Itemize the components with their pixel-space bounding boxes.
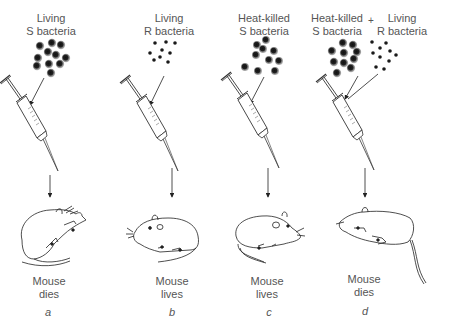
- panel-c-injection-arrow: [250, 77, 264, 104]
- panel-a-dead-mouse-icon: [21, 206, 86, 266]
- panel-c-letter: c: [259, 306, 279, 318]
- panel-a-outcome-line2: dies: [21, 288, 77, 301]
- panel-b-letter: b: [162, 306, 182, 318]
- panel-b-outcome-line1: Mouse: [147, 275, 197, 288]
- panel-c-outcome-line1: Mouse: [242, 275, 292, 288]
- panel-a-outcome: Mouse dies: [21, 275, 77, 301]
- panel-b-syringe-icon: [120, 75, 178, 171]
- panel-a-injection-arrow: [30, 78, 44, 105]
- panel-b-label-line1: Living: [140, 12, 198, 25]
- panel-d-s-injection-arrow: [345, 76, 358, 99]
- panel-c-label-line1: Heat-killed: [232, 12, 296, 25]
- panel-d-r-bacteria: [370, 40, 398, 71]
- panel-a-outcome-line1: Mouse: [21, 275, 77, 288]
- panel-a-label-line1: Living: [22, 12, 80, 25]
- panel-d-second-label-line2: R bacteria: [372, 25, 432, 38]
- panel-d-s-bacteria: [328, 39, 361, 77]
- panel-b-live-mouse-icon: [126, 215, 199, 262]
- panel-c-outcome-line2: lives: [242, 288, 292, 301]
- panel-b-outcome: Mouse lives: [147, 275, 197, 301]
- panel-b-injection-label: Living R bacteria: [140, 12, 198, 38]
- panel-d-letter: d: [355, 305, 375, 317]
- panel-b-injection-arrow: [150, 76, 164, 105]
- panel-d-second-label-line1: Living: [372, 12, 432, 25]
- panel-a-bacteria: [33, 39, 70, 77]
- panel-d-label-line2: S bacteria: [305, 25, 369, 38]
- panel-d-outcome-line2: dies: [339, 286, 389, 299]
- panel-b-label-line2: R bacteria: [140, 25, 198, 38]
- panel-d-label-line1: Heat-killed: [305, 12, 369, 25]
- panel-c-bacteria: [241, 36, 283, 75]
- panel-d-second-label: Living R bacteria: [372, 12, 432, 38]
- panel-d-injection-label: Heat-killed S bacteria: [305, 12, 369, 38]
- panel-c-outcome: Mouse lives: [242, 275, 292, 301]
- panel-d-syringe-icon: [316, 74, 374, 170]
- panel-b-bacteria: [148, 40, 177, 64]
- panel-c-injection-label: Heat-killed S bacteria: [232, 12, 296, 38]
- panel-d-outcome-line1: Mouse: [339, 273, 389, 286]
- panel-a-letter: a: [38, 306, 58, 318]
- panel-b-outcome-line2: lives: [147, 288, 197, 301]
- panel-a-label-line2: S bacteria: [22, 25, 80, 38]
- panel-d-outcome: Mouse dies: [339, 273, 389, 299]
- panel-a-syringe-icon: [0, 75, 58, 171]
- panel-c-label-line2: S bacteria: [232, 25, 296, 38]
- panel-c-live-mouse-icon: [236, 212, 305, 263]
- panel-a-injection-label: Living S bacteria: [22, 12, 80, 38]
- panel-c-syringe-icon: [221, 72, 279, 168]
